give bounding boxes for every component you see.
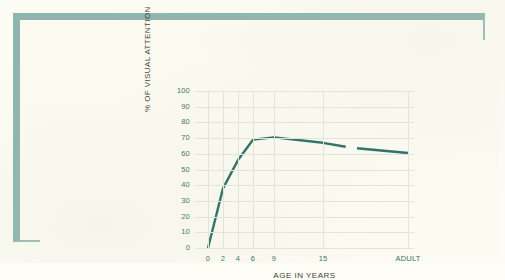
gridline-vertical: [208, 91, 209, 248]
gridline-horizontal: [195, 91, 414, 92]
gridline-horizontal: [195, 138, 414, 139]
decorative-frame: 0102030405060708090100 % OF VISUAL ATTEN…: [13, 13, 485, 242]
x-axis-tick-label: 4: [236, 254, 240, 263]
y-axis-title: % OF VISUAL ATTENTION: [143, 0, 152, 112]
x-axis-tick-label: 0: [206, 254, 210, 263]
y-axis-tick-label: 80: [160, 118, 190, 126]
gridline-horizontal: [195, 185, 414, 186]
y-axis-tick-label: 30: [160, 197, 190, 205]
y-axis-tick-label: 70: [160, 134, 190, 142]
gridline-horizontal: [195, 154, 414, 155]
gridline-horizontal: [195, 217, 414, 218]
x-axis-tick-labels: 0246915ADULT: [195, 254, 414, 266]
x-axis-title: AGE IN YEARS: [195, 271, 414, 280]
x-axis-tick-label: 6: [251, 254, 255, 263]
y-axis-tick-label: 10: [160, 228, 190, 236]
y-axis-tick-labels: 0102030405060708090100: [158, 87, 190, 252]
y-axis-tick-label: 20: [160, 213, 190, 221]
gridline-horizontal: [195, 107, 414, 108]
gridline-horizontal: [195, 201, 414, 202]
frame-inner-panel: 0102030405060708090100 % OF VISUAL ATTEN…: [40, 40, 498, 256]
series-polyline: [357, 148, 408, 153]
y-axis-tick-label: 100: [160, 87, 190, 95]
gridline-vertical: [223, 91, 224, 248]
x-axis-tick-label: 9: [272, 254, 276, 263]
x-axis-tick-label: 2: [221, 254, 225, 263]
gridline-vertical: [253, 91, 254, 248]
x-axis-tick-label: 15: [319, 254, 328, 263]
gridline-vertical: [274, 91, 275, 248]
x-axis-tick-label: ADULT: [395, 254, 420, 263]
y-axis-tick-label: 90: [160, 103, 190, 111]
y-axis-tick-label: 50: [160, 166, 190, 174]
y-axis-tick-label: 60: [160, 150, 190, 158]
gridline-horizontal: [195, 122, 414, 123]
y-axis-tick-label: 40: [160, 181, 190, 189]
gridline-vertical: [323, 91, 324, 248]
plot-area: [195, 91, 414, 248]
gridline-horizontal: [195, 248, 414, 249]
gridline-horizontal: [195, 232, 414, 233]
y-axis-tick-label: 0: [160, 244, 190, 252]
gridline-vertical: [408, 91, 409, 248]
gridline-horizontal: [195, 170, 414, 171]
gridline-vertical: [238, 91, 239, 248]
